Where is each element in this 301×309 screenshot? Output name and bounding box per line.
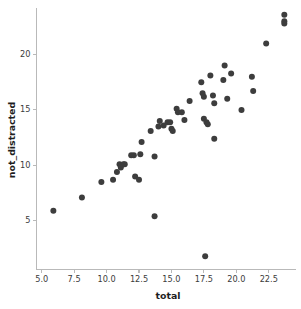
data-point [207,73,213,79]
data-point [281,12,287,18]
data-point [228,70,234,76]
data-point [152,213,158,219]
data-point [239,107,245,113]
data-point [170,128,176,134]
y-tick-label: 15 [20,104,30,114]
data-point [179,109,185,115]
data-point [50,208,56,214]
x-tick-label: 5.0 [35,274,48,284]
data-point [211,100,217,106]
data-point [98,179,104,185]
data-point [155,124,161,130]
x-tick-label: 22.5 [260,274,278,284]
data-point [250,88,256,94]
x-tick-label: 17.5 [195,274,213,284]
x-tick-label: 20.0 [227,274,245,284]
data-point [131,152,137,158]
data-point [181,117,187,123]
data-point [210,93,216,99]
data-point [136,177,142,183]
y-axis: 5101520 [20,8,36,270]
x-tick-label: 7.5 [68,274,81,284]
plot-canvas: 5101520 5.07.510.012.515.017.520.022.5 t… [0,0,301,309]
data-points-group [50,12,287,260]
x-tick-label: 12.5 [130,274,148,284]
x-axis-title: total [156,290,181,301]
data-point [263,40,269,46]
data-point [198,79,204,85]
scatter-plot-figure: 5101520 5.07.510.012.515.017.520.022.5 t… [0,0,301,309]
data-point [249,74,255,80]
data-point [220,77,226,83]
x-tick-label: 10.0 [97,274,115,284]
data-point [137,151,143,157]
data-point [205,121,211,127]
x-tick-label: 15.0 [162,274,180,284]
data-point [281,21,287,27]
data-point [122,161,128,167]
x-tick-group: 5.07.510.012.515.017.520.022.5 [35,270,278,284]
data-point [148,128,154,134]
data-point [79,194,85,200]
data-point [202,253,208,259]
y-axis-title: not_distracted [6,102,17,178]
y-tick-group: 5101520 [20,49,36,225]
data-point [110,177,116,183]
data-point [201,94,207,100]
data-point [224,96,230,102]
data-point [139,139,145,145]
data-point [222,63,228,69]
x-axis: 5.07.510.012.515.017.520.022.5 [35,270,296,284]
data-point [167,119,173,125]
data-point [152,153,158,159]
y-tick-label: 5 [25,215,30,225]
data-point [187,98,193,104]
y-tick-label: 20 [20,49,30,59]
data-point [211,136,217,142]
y-tick-label: 10 [20,160,30,170]
